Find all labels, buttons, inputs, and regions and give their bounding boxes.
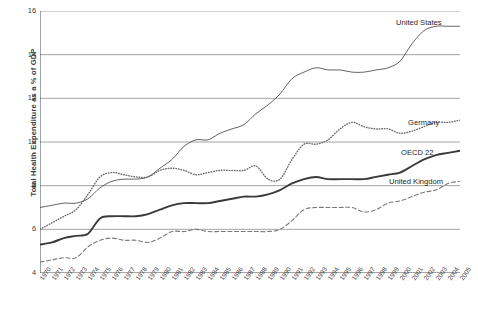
x-tick-label: 1997 [363, 266, 377, 282]
x-tick-label: 1999 [387, 266, 401, 282]
x-tick-label: 1989 [267, 266, 281, 282]
x-tick-label: 2005 [459, 266, 473, 282]
x-tick-label: 1994 [327, 266, 341, 282]
x-tick-label: 1985 [219, 266, 233, 282]
x-tick-label: 1974 [87, 266, 101, 282]
x-tick-label: 1975 [99, 266, 113, 282]
series-label-oecd-22: OECD 22 [401, 148, 434, 157]
x-tick-label: 1970 [39, 266, 53, 282]
series-label-united-states: United States [396, 18, 442, 27]
x-tick-label: 1971 [51, 266, 65, 282]
x-tick-label: 1979 [147, 266, 161, 282]
x-tick-label: 1992 [303, 266, 317, 282]
x-tick-label: 1980 [159, 266, 173, 282]
x-tick-label: 1972 [63, 266, 77, 282]
x-tick-label: 2000 [399, 266, 413, 282]
x-tick-label: 1991 [291, 266, 305, 282]
x-tick-label: 1973 [75, 266, 89, 282]
x-tick-label: 1984 [207, 266, 221, 282]
x-tick-label: 1987 [243, 266, 257, 282]
series-label-united-kingdom: United Kingdom [389, 177, 443, 186]
x-tick-label: 2002 [423, 266, 437, 282]
x-tick-label: 1996 [351, 266, 365, 282]
x-tick-label: 2001 [411, 266, 425, 282]
x-tick-label: 1982 [183, 266, 197, 282]
x-tick-label: 1988 [255, 266, 269, 282]
x-tick-label: 1977 [123, 266, 137, 282]
x-tick-label: 1983 [195, 266, 209, 282]
x-tick-label: 1986 [231, 266, 245, 282]
x-tick-label: 1993 [315, 266, 329, 282]
x-tick-label: 1976 [111, 266, 125, 282]
x-tick-label: 2003 [435, 266, 449, 282]
health-expenditure-line-chart: Total Health Expenditure as a % of GDP 4… [0, 0, 478, 312]
x-tick-label: 1978 [135, 266, 149, 282]
x-tick-label: 1995 [339, 266, 353, 282]
x-tick-label: 2004 [447, 266, 461, 282]
x-tick-label: 1990 [279, 266, 293, 282]
x-tick-label: 1981 [171, 266, 185, 282]
series-label-germany: Germany [408, 118, 439, 127]
x-tick-label: 1998 [375, 266, 389, 282]
